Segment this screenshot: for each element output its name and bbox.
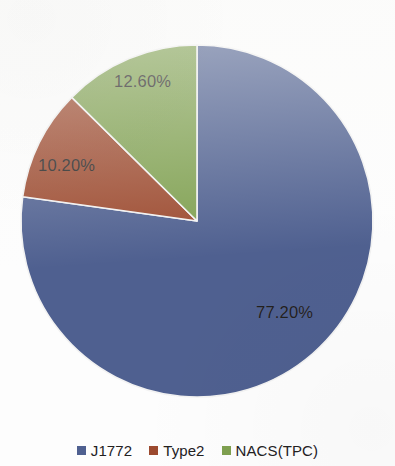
pie-slice-label-type2: 10.20% [38,156,95,175]
pie-slice-label-nacs: 12.60% [114,72,171,91]
legend-item-label: NACS(TPC) [236,443,319,458]
chart-legend: J1772 Type2 NACS(TPC) [0,438,395,462]
pie-slice-label-j1772: 77.20% [256,303,313,322]
legend-item-type2[interactable]: Type2 [149,443,204,458]
legend-swatch-icon [149,446,158,455]
legend-item-nacs[interactable]: NACS(TPC) [222,443,319,458]
legend-item-j1772[interactable]: J1772 [77,443,132,458]
pie-slice-group [21,45,373,397]
legend-item-label: Type2 [163,443,204,458]
pie-chart-svg [0,0,395,418]
legend-swatch-icon [77,446,86,455]
legend-item-label: J1772 [91,443,132,458]
legend-swatch-icon [222,446,231,455]
pie-chart: 77.20% 10.20% 12.60% [0,0,395,418]
